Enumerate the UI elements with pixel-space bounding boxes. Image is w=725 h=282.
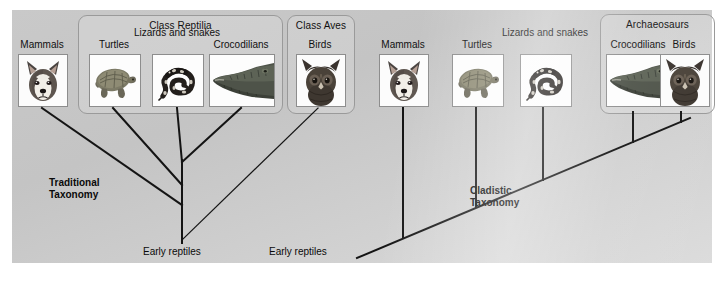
diagram-canvas: Class Reptilia Class Aves Mammals (0, 0, 725, 282)
snake-photo (520, 54, 572, 107)
taxon-left-lizards-and-snakes-label: Lizards and snakes (134, 28, 220, 39)
taxon-left-birds-label: Birds (309, 40, 332, 51)
dog-head-photo (18, 54, 68, 107)
taxon-right-crocodilians-label: Crocodilians (610, 40, 665, 51)
owl-head-photo (296, 54, 346, 107)
taxon-right-turtles-label: Turtles (462, 40, 492, 51)
turtle-photo (452, 54, 504, 107)
turtle-photo (89, 54, 141, 107)
right-root-label: Early reptiles (269, 246, 327, 257)
taxon-left-mammals-label: Mammals (20, 40, 63, 51)
taxon-right-birds-label: Birds (673, 40, 696, 51)
owl-head-photo (660, 54, 710, 107)
crocodile-head-photo (209, 54, 275, 107)
right-tree-caption: Cladistic Taxonomy (470, 185, 519, 209)
group-class-aves-title: Class Aves (288, 20, 354, 31)
taxon-right-lizards-and-snakes-label: Lizards and snakes (502, 28, 588, 39)
taxon-left-turtles-label: Turtles (99, 40, 129, 51)
taxon-right-mammals-label: Mammals (381, 40, 424, 51)
left-tree-caption: Traditional Taxonomy (49, 177, 100, 201)
left-root-label: Early reptiles (143, 246, 201, 257)
snake-photo (152, 54, 204, 107)
group-archaeosaurs-title: Archaeosaurs (601, 19, 714, 30)
taxon-left-crocodilians-label: Crocodilians (213, 40, 268, 51)
dog-head-photo (379, 54, 429, 107)
